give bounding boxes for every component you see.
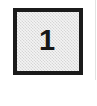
numbered-box[interactable]: 1 [13, 8, 83, 75]
page-canvas: 1 [0, 0, 97, 106]
box-number-label: 1 [39, 26, 55, 55]
page-margin-rule [95, 0, 96, 80]
